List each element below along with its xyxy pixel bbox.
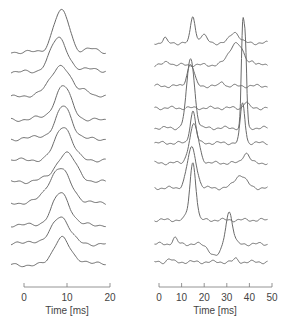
right-trace-3 (155, 65, 268, 88)
left-trace-4 (11, 86, 106, 122)
right-trace-2 (155, 43, 268, 67)
left-trace-1 (11, 9, 106, 53)
left-trace-11 (11, 236, 106, 266)
right-trace-1 (155, 17, 268, 45)
left-tick-label-10: 10 (61, 292, 73, 303)
left-tick-label-0: 0 (21, 292, 27, 303)
right-trace-4 (155, 102, 268, 110)
right-trace-8 (155, 147, 268, 190)
right-tick-label-30: 30 (221, 292, 233, 303)
waterfall-chart: 0 10 20 Time [ms] 0 10 20 30 40 50 Time … (0, 0, 292, 332)
right-tick-label-50: 50 (266, 292, 278, 303)
left-trace-6 (11, 128, 106, 162)
right-x-axis: 0 10 20 30 40 50 Time [ms] (156, 283, 278, 316)
left-axis-title: Time [ms] (45, 305, 89, 316)
right-trace-9 (155, 163, 268, 222)
left-tick-label-20: 20 (104, 292, 116, 303)
right-trace-5 (155, 18, 268, 130)
left-trace-9 (11, 193, 106, 227)
right-axis-title: Time [ms] (193, 305, 237, 316)
left-x-axis: 0 10 20 Time [ms] (21, 283, 116, 316)
right-tick-label-40: 40 (244, 292, 256, 303)
right-trace-11 (155, 258, 268, 264)
right-trace-10 (155, 212, 268, 255)
left-trace-2 (11, 37, 106, 73)
left-trace-7 (11, 152, 106, 184)
left-panel-traces (11, 9, 106, 266)
right-trace-6 (155, 103, 268, 145)
left-trace-8 (11, 169, 106, 205)
left-trace-10 (11, 217, 106, 246)
right-tick-label-10: 10 (176, 292, 188, 303)
left-trace-5 (11, 106, 106, 141)
right-tick-label-20: 20 (199, 292, 211, 303)
right-tick-label-0: 0 (156, 292, 162, 303)
right-panel-traces (155, 17, 268, 264)
